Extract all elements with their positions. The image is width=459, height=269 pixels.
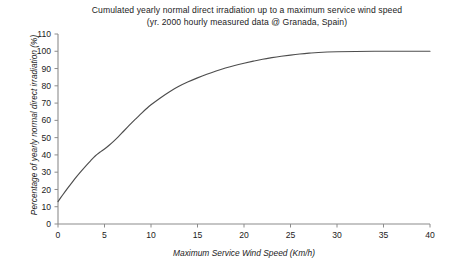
y-tick-label: 100 [37,46,52,56]
y-axis-ticks: 0102030405060708090100110 [37,29,58,229]
data-series-line [58,51,430,201]
y-tick-label: 30 [41,167,51,177]
y-tick-label: 10 [41,202,51,212]
x-tick-label: 30 [332,230,342,240]
x-axis-ticks: 0510152025303540 [56,224,435,240]
x-tick-label: 0 [56,230,61,240]
x-tick-label: 10 [146,230,156,240]
x-tick-label: 5 [102,230,107,240]
y-tick-label: 0 [46,219,51,229]
plot-area: 0102030405060708090100110 05101520253035… [0,0,459,269]
y-tick-label: 70 [41,98,51,108]
x-tick-label: 20 [239,230,249,240]
y-tick-label: 60 [41,115,51,125]
y-tick-label: 90 [41,64,51,74]
x-tick-label: 35 [379,230,389,240]
chart-figure: Cumulated yearly normal direct irradiati… [0,0,459,269]
y-tick-label: 80 [41,81,51,91]
y-tick-label: 40 [41,150,51,160]
y-tick-label: 50 [41,133,51,143]
x-tick-label: 15 [193,230,203,240]
x-tick-label: 25 [286,230,296,240]
y-tick-label: 20 [41,185,51,195]
x-tick-label: 40 [425,230,435,240]
y-tick-label: 110 [37,29,51,39]
